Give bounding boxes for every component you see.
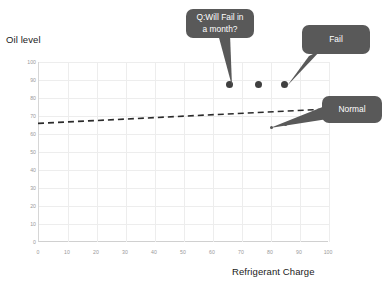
gridline-v [97,62,98,242]
gridline-v [155,62,156,242]
callout-question[interactable]: Q:Will Fail in a month? [186,9,254,38]
callout-normal[interactable]: Normal [322,96,382,123]
y-tick-label: 90 [18,77,36,83]
x-tick-label: 80 [261,249,279,255]
gridline-v [126,62,127,242]
x-tick-label: 40 [145,249,163,255]
gridline-v [329,62,330,242]
x-tick-label: 60 [203,249,221,255]
x-tick-label: 30 [116,249,134,255]
y-tick-label: 0 [18,239,36,245]
y-tick-label: 80 [18,95,36,101]
y-tick-label: 70 [18,113,36,119]
x-tick-label: 50 [174,249,192,255]
x-tick-label: 0 [29,249,47,255]
y-tick-label: 20 [18,203,36,209]
x-tick-label: 20 [87,249,105,255]
y-tick-label: 50 [18,149,36,155]
gridline-v [68,62,69,242]
gridline-v [300,62,301,242]
data-point-fail [255,81,262,88]
data-point-normal [284,123,287,126]
data-point-normal [270,126,273,129]
x-tick-label: 70 [232,249,250,255]
y-tick-label: 40 [18,167,36,173]
y-axis-title: Oil level [6,34,41,45]
callout-question-line1: Q:Will Fail in [197,12,244,24]
plot-area [38,62,328,242]
gridline-v [271,62,272,242]
callout-fail[interactable]: Fail [302,25,370,54]
x-tick-label: 10 [58,249,76,255]
gridline-v [213,62,214,242]
y-tick-label: 10 [18,221,36,227]
callout-fail-label: Fail [329,34,343,46]
x-axis-title: Refrigerant Charge [232,266,315,277]
y-tick-label: 30 [18,185,36,191]
y-tick-label: 60 [18,131,36,137]
callout-question-line2: a month? [197,24,244,36]
data-point-fail [226,81,233,88]
callout-question-text: Q:Will Fail in a month? [197,12,244,35]
y-tick-label: 100 [18,59,36,65]
data-point-fail [281,81,288,88]
gridline-v [184,62,185,242]
chart-canvas: Oil level [0,0,388,288]
callout-normal-label: Normal [339,104,366,116]
gridlines [39,62,328,241]
gridline-v [242,62,243,242]
x-tick-label: 90 [290,249,308,255]
x-tick-label: 100 [319,249,337,255]
